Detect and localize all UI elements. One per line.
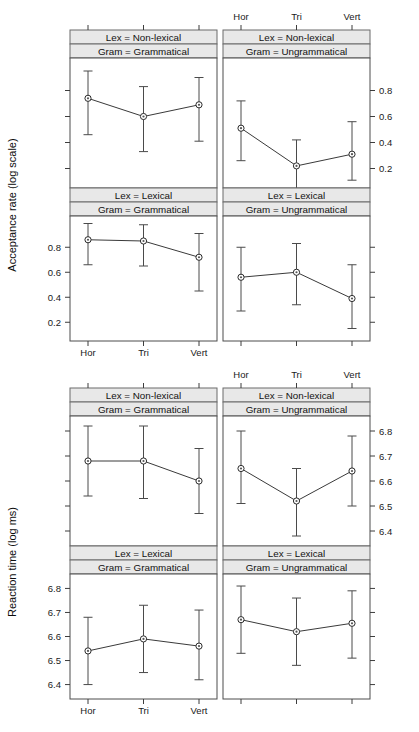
data-point-center bbox=[142, 115, 144, 117]
data-point-center bbox=[295, 271, 297, 273]
ytick-label-1-1: 0.4 bbox=[48, 292, 61, 303]
data-point-center bbox=[240, 276, 242, 278]
data-point-center bbox=[198, 256, 200, 258]
strip-gram-label-1-0: Gram = Grammatical bbox=[98, 204, 189, 215]
ytick-label-0-4: 6.8 bbox=[379, 426, 392, 437]
data-point-center bbox=[240, 127, 242, 129]
trellis-figure: Lex = Non-lexicalGram = GrammaticalLex =… bbox=[0, 0, 419, 732]
ytick-label-0-2: 6.6 bbox=[379, 476, 392, 487]
data-point-center bbox=[351, 622, 353, 624]
xtick-label-top-0: Hor bbox=[233, 11, 248, 22]
strip-gram-label-0-1: Gram = Ungrammatical bbox=[246, 46, 348, 57]
xtick-label-bottom-2: Vert bbox=[191, 347, 208, 358]
xtick-label-bottom-2: Vert bbox=[191, 705, 208, 716]
ytick-label-0-3: 6.7 bbox=[379, 451, 392, 462]
ytick-label-0-0: 0.2 bbox=[379, 163, 392, 174]
ytick-label-1-3: 0.8 bbox=[48, 242, 61, 253]
ytick-label-1-3: 6.7 bbox=[48, 607, 61, 618]
xtick-label-top-0: Hor bbox=[233, 369, 248, 380]
xtick-label-bottom-0: Hor bbox=[80, 347, 95, 358]
data-point-center bbox=[198, 104, 200, 106]
y-axis-title-acceptance-rate: Acceptance rate (log scale) bbox=[6, 138, 18, 271]
ytick-label-1-2: 6.6 bbox=[48, 631, 61, 642]
strip-lex-label-1-0: Lex = Lexical bbox=[115, 548, 172, 559]
data-point-center bbox=[87, 460, 89, 462]
data-point-center bbox=[87, 97, 89, 99]
ytick-label-1-0: 0.2 bbox=[48, 317, 61, 328]
data-point-center bbox=[142, 460, 144, 462]
strip-lex-label-0-0: Lex = Non-lexical bbox=[106, 390, 181, 401]
strip-gram-label-1-1: Gram = Ungrammatical bbox=[246, 562, 348, 573]
data-point-center bbox=[198, 645, 200, 647]
data-point-center bbox=[87, 650, 89, 652]
chart-reaction-time: Lex = Non-lexicalGram = GrammaticalLex =… bbox=[6, 369, 392, 716]
y-axis-title-reaction-time: Reaction time (log ms) bbox=[6, 507, 18, 617]
data-point-center bbox=[240, 619, 242, 621]
strip-lex-label-1-0: Lex = Lexical bbox=[115, 190, 172, 201]
ytick-label-0-2: 0.6 bbox=[379, 111, 392, 122]
ytick-label-0-0: 6.4 bbox=[379, 526, 392, 537]
data-point-center bbox=[142, 638, 144, 640]
data-point-center bbox=[295, 165, 297, 167]
data-point-center bbox=[198, 480, 200, 482]
data-point-center bbox=[87, 239, 89, 241]
xtick-label-bottom-1: Tri bbox=[138, 705, 149, 716]
ytick-label-1-4: 6.8 bbox=[48, 583, 61, 594]
strip-gram-label-0-0: Gram = Grammatical bbox=[98, 46, 189, 57]
strip-lex-label-0-0: Lex = Non-lexical bbox=[106, 32, 181, 43]
strip-gram-label-0-0: Gram = Grammatical bbox=[98, 404, 189, 415]
strip-lex-label-0-1: Lex = Non-lexical bbox=[259, 390, 334, 401]
strip-lex-label-1-1: Lex = Lexical bbox=[268, 190, 325, 201]
data-point-center bbox=[295, 500, 297, 502]
xtick-label-bottom-1: Tri bbox=[138, 347, 149, 358]
data-point-center bbox=[142, 240, 144, 242]
ytick-label-1-1: 6.5 bbox=[48, 655, 61, 666]
strip-lex-label-0-1: Lex = Non-lexical bbox=[259, 32, 334, 43]
data-point-center bbox=[295, 631, 297, 633]
strip-gram-label-1-0: Gram = Grammatical bbox=[98, 562, 189, 573]
ytick-label-1-0: 6.4 bbox=[48, 679, 61, 690]
strip-gram-label-0-1: Gram = Ungrammatical bbox=[246, 404, 348, 415]
data-point-center bbox=[240, 467, 242, 469]
xtick-label-bottom-0: Hor bbox=[80, 705, 95, 716]
xtick-label-top-1: Tri bbox=[291, 369, 302, 380]
xtick-label-top-2: Vert bbox=[344, 11, 361, 22]
xtick-label-top-1: Tri bbox=[291, 11, 302, 22]
data-point-center bbox=[351, 470, 353, 472]
strip-lex-label-1-1: Lex = Lexical bbox=[268, 548, 325, 559]
ytick-label-0-3: 0.8 bbox=[379, 85, 392, 96]
figure-root: Lex = Non-lexicalGram = GrammaticalLex =… bbox=[0, 0, 419, 732]
data-point-center bbox=[351, 153, 353, 155]
ytick-label-0-1: 6.5 bbox=[379, 501, 392, 512]
xtick-label-top-2: Vert bbox=[344, 369, 361, 380]
ytick-label-0-1: 0.4 bbox=[379, 137, 392, 148]
data-point-center bbox=[351, 297, 353, 299]
strip-gram-label-1-1: Gram = Ungrammatical bbox=[246, 204, 348, 215]
ytick-label-1-2: 0.6 bbox=[48, 267, 61, 278]
chart-acceptance-rate: Lex = Non-lexicalGram = GrammaticalLex =… bbox=[6, 11, 392, 358]
